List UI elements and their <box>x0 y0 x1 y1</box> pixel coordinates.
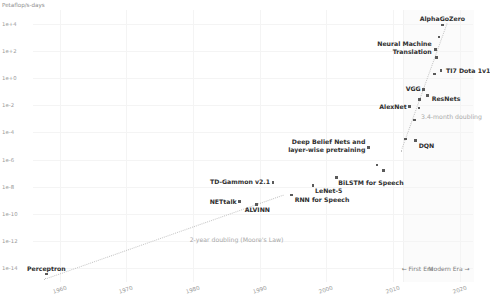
point-label: VGG <box>406 85 421 92</box>
data-point[interactable] <box>440 69 443 72</box>
data-point[interactable] <box>434 48 437 51</box>
data-point[interactable] <box>238 200 241 203</box>
data-point[interactable] <box>418 107 421 110</box>
data-point[interactable] <box>312 184 315 187</box>
point-label: TD-Gammon v2.1 <box>210 178 270 185</box>
point-label: Perceptron <box>27 264 66 271</box>
point-label: NETtalk <box>210 198 237 205</box>
y-tick-label: 1e-14 <box>2 265 18 271</box>
data-point[interactable] <box>404 138 407 141</box>
x-tick-label: 1980 <box>185 285 200 295</box>
point-label: Deep Belief Nets and layer-wise pretrain… <box>288 138 365 153</box>
x-tick-label: 2000 <box>318 285 333 295</box>
y-tick-label: 1e-10 <box>2 211 18 217</box>
gridline-horizontal <box>33 187 473 188</box>
point-label: RNN for Speech <box>295 196 350 203</box>
x-tick-label: 2020 <box>452 285 467 295</box>
trend-label-moores-law: 2-year doubling (Moore's Law) <box>190 236 284 243</box>
plot-area: 2-year doubling (Moore's Law)3.4-month d… <box>33 10 473 282</box>
y-tick-label: 1e-8 <box>2 184 14 190</box>
data-point[interactable] <box>426 94 429 97</box>
y-tick-label: 1e-6 <box>2 157 14 163</box>
gridline-vertical <box>60 10 61 282</box>
data-point[interactable] <box>382 169 385 172</box>
gridline-vertical <box>126 10 127 282</box>
gridline-vertical <box>460 10 461 282</box>
data-point[interactable] <box>438 36 441 39</box>
point-label: AlphaGoZero <box>420 15 465 22</box>
point-label: DQN <box>419 142 435 149</box>
y-tick-label: 1e-2 <box>2 102 14 108</box>
gridline-horizontal <box>33 105 473 106</box>
data-point[interactable] <box>272 181 275 184</box>
data-point[interactable] <box>408 105 411 108</box>
point-label: TI7 Dota 1v1 <box>446 67 490 74</box>
y-tick-label: 1e-4 <box>2 129 14 135</box>
data-point[interactable] <box>290 194 293 197</box>
point-label: LeNet-5 <box>315 188 342 195</box>
data-point[interactable] <box>418 98 421 101</box>
gridline-horizontal <box>33 214 473 215</box>
trend-label-modern-era-doubling: 3.4-month doubling <box>421 113 482 120</box>
y-axis-title: Petaflop/s-days <box>2 2 45 8</box>
point-label: Neural Machine Translation <box>377 40 431 55</box>
data-point[interactable] <box>422 88 425 91</box>
point-label: AlexNet <box>379 103 406 110</box>
data-point[interactable] <box>376 164 379 167</box>
data-point[interactable] <box>433 73 436 76</box>
y-tick-label: 1e+0 <box>2 75 17 81</box>
gridline-horizontal <box>33 160 473 161</box>
data-point[interactable] <box>335 176 338 179</box>
point-label: ResNets <box>432 95 461 102</box>
y-tick-label: 1e+4 <box>2 21 17 27</box>
data-point[interactable] <box>441 24 444 27</box>
x-tick-label: 2010 <box>385 285 400 295</box>
x-tick-label: 1970 <box>118 285 133 295</box>
gridline-horizontal <box>33 78 473 79</box>
point-label: BiLSTM for Speech <box>338 180 403 187</box>
x-tick-label: 1990 <box>252 285 267 295</box>
x-tick-label: 1960 <box>52 285 67 295</box>
gridline-horizontal <box>33 24 473 25</box>
data-point[interactable] <box>414 139 417 142</box>
data-point[interactable] <box>435 56 438 59</box>
y-tick-label: 1e+2 <box>2 48 17 54</box>
modern-era-legend: Modern Era → <box>428 265 469 272</box>
data-point[interactable] <box>45 273 48 276</box>
data-point[interactable] <box>413 119 416 122</box>
point-label: ALVINN <box>245 206 270 213</box>
data-point[interactable] <box>367 146 370 149</box>
y-tick-label: 1e-12 <box>2 238 18 244</box>
